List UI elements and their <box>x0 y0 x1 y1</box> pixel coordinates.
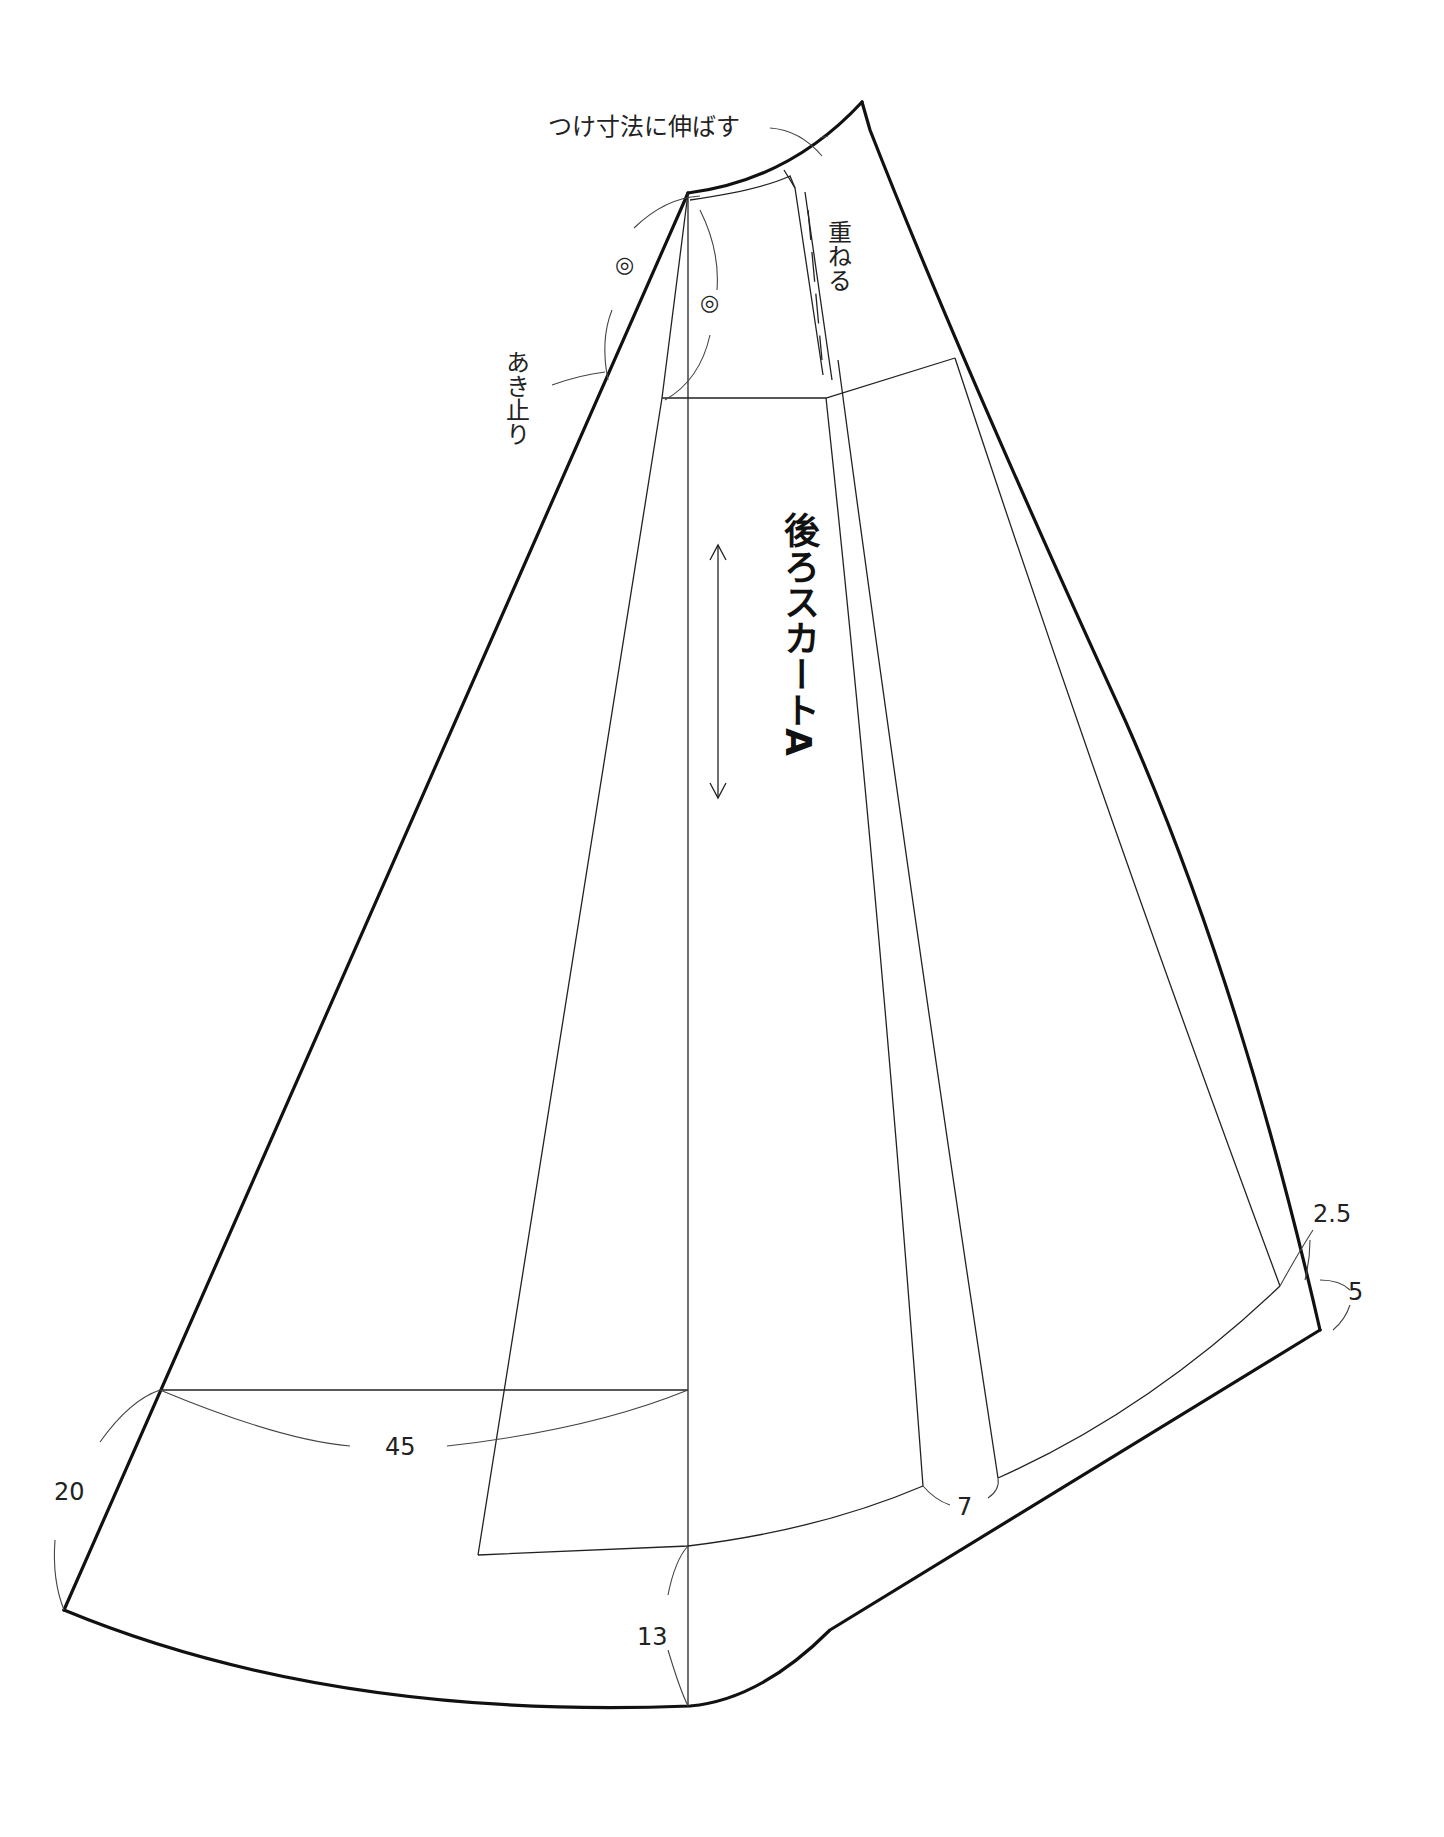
construction-lines <box>160 170 1280 1706</box>
mark-1: ◎ <box>615 252 634 277</box>
dim-5: 5 <box>1348 1278 1363 1306</box>
dim-2-5: 2.5 <box>1313 1200 1351 1228</box>
dimension-guides <box>54 128 1350 1706</box>
dim-20: 20 <box>54 1478 85 1506</box>
dim-45: 45 <box>385 1433 416 1461</box>
skirt-pattern-diagram: つけ寸法に伸ばす ◎ ◎ 2.5 5 20 45 7 13 <box>0 0 1444 1837</box>
overlap-note-label: 重ねる <box>820 220 855 292</box>
dim-7: 7 <box>957 1493 972 1521</box>
piece-name-label: 後ろスカートA <box>772 512 824 756</box>
stretch-note-label: つけ寸法に伸ばす <box>548 113 740 141</box>
dim-13: 13 <box>637 1623 668 1651</box>
opening-end-label: あき止り <box>498 350 533 446</box>
grainline-arrow <box>710 545 726 798</box>
pattern-outline <box>64 102 1320 1708</box>
mark-2: ◎ <box>700 290 719 315</box>
